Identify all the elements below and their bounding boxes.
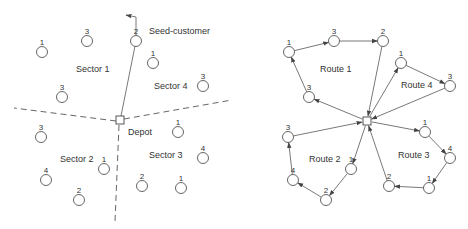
customer-node	[137, 181, 148, 192]
route-stop-node	[445, 153, 456, 164]
demand-label: 4	[44, 166, 49, 175]
sector-boundary-bottom	[115, 125, 119, 222]
route-edge	[368, 46, 382, 116]
customer-node	[37, 47, 48, 58]
route-edge	[294, 42, 328, 50]
route-1-label: Route 1	[320, 64, 352, 74]
customer-node	[99, 164, 110, 175]
route-edge	[432, 163, 447, 184]
route-edge	[369, 126, 388, 181]
demand-label: 4	[291, 166, 296, 175]
sector-boundary-left	[14, 108, 116, 121]
route-nodes: 31321314121243	[283, 27, 456, 206]
demand-label: 1	[176, 118, 181, 127]
route-stop-node	[424, 183, 435, 194]
route-stop-node	[378, 36, 389, 47]
route-edge	[372, 88, 445, 119]
route-2-label: Route 2	[309, 154, 341, 164]
demand-label: 3	[286, 123, 291, 132]
sector-boundary-right	[124, 100, 232, 119]
route-stop-node	[346, 164, 357, 175]
route-stop-node	[396, 58, 407, 69]
demand-label: 2	[324, 186, 329, 195]
route-edge	[329, 173, 347, 195]
route-edge	[429, 136, 446, 154]
demand-label: 1	[151, 49, 156, 58]
route-4-label: Route 4	[401, 80, 433, 90]
vrp-sweep-diagram: 13213331414212 Sector 1 Sector 4 Sector …	[0, 0, 468, 229]
demand-label: 1	[399, 49, 404, 58]
route-stop-node	[384, 181, 395, 192]
route-stop-node	[288, 175, 299, 186]
demand-label: 3	[201, 72, 206, 81]
route-edge	[298, 183, 322, 197]
customer-node	[131, 36, 142, 47]
route-stop-node	[321, 195, 332, 206]
sector-4-label: Sector 4	[154, 81, 188, 91]
demand-label: 3	[60, 83, 65, 92]
route-edge	[314, 99, 362, 119]
route-edge	[353, 126, 366, 164]
sector-3-label: Sector 3	[149, 150, 183, 160]
demand-label: 4	[201, 144, 206, 153]
demand-label: 2	[140, 172, 145, 181]
customer-node	[74, 195, 85, 206]
demand-label: 1	[423, 118, 428, 127]
demand-label: 2	[134, 27, 139, 36]
route-stop-node	[304, 92, 315, 103]
customer-node	[36, 132, 47, 143]
depot-square	[116, 116, 124, 124]
route-edge	[293, 122, 362, 136]
depot-label: Depot	[128, 127, 153, 137]
customer-node	[41, 175, 52, 186]
customer-node	[198, 153, 209, 164]
sector-1-label: Sector 1	[76, 64, 110, 74]
seed-customer-label: Seed-customer	[149, 26, 210, 36]
customer-node	[198, 81, 209, 92]
route-edge	[291, 57, 307, 92]
route-depot-square	[363, 117, 371, 125]
demand-label: 2	[381, 27, 386, 36]
demand-label: 1	[102, 155, 107, 164]
route-stop-node	[329, 36, 340, 47]
route-stop-node	[445, 81, 456, 92]
customer-node	[57, 92, 68, 103]
demand-label: 3	[332, 27, 337, 36]
route-diagram: 31321314121243 Route 1 Route 4 Route 2 R…	[283, 27, 456, 206]
demand-label: 3	[307, 83, 312, 92]
sector-diagram: 13213331414212 Sector 1 Sector 4 Sector …	[14, 15, 232, 222]
demand-label: 3	[85, 27, 90, 36]
route-stop-node	[283, 132, 294, 143]
customer-node	[82, 36, 93, 47]
route-stop-node	[284, 47, 295, 58]
demand-label: 1	[40, 38, 45, 47]
sector-2-label: Sector 2	[60, 154, 94, 164]
demand-label: 2	[77, 186, 82, 195]
sweep-ray	[121, 46, 135, 116]
customer-node	[173, 127, 184, 138]
demand-label: 2	[387, 172, 392, 181]
demand-label: 1	[287, 38, 292, 47]
route-stop-node	[420, 127, 431, 138]
demand-label: 1	[179, 174, 184, 183]
route-edge	[394, 186, 423, 187]
route-edge	[372, 122, 420, 131]
customer-node	[176, 183, 187, 194]
route-3-label: Route 3	[398, 150, 430, 160]
demand-label: 3	[39, 123, 44, 132]
demand-label: 4	[448, 144, 453, 153]
demand-label: 1	[349, 155, 354, 164]
customer-node	[148, 58, 159, 69]
demand-label: 1	[427, 174, 432, 183]
demand-label: 3	[448, 72, 453, 81]
